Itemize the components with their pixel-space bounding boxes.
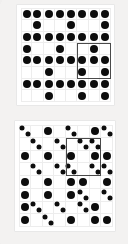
large-dot (101, 33, 109, 41)
large-dot (33, 10, 41, 18)
grid-cell (54, 151, 66, 164)
small-dot (25, 132, 30, 137)
grid-cell (100, 20, 111, 32)
small-dot (60, 144, 65, 149)
large-dot (56, 56, 64, 64)
grid-cell (19, 202, 31, 215)
large-dot (90, 56, 98, 64)
grid-cell (78, 151, 90, 164)
grid-cell (78, 176, 90, 189)
grid-cell (31, 176, 43, 189)
grid-cell (44, 55, 55, 67)
large-dot (78, 33, 86, 41)
small-dot (54, 138, 59, 143)
grid-cell (43, 214, 55, 227)
large-dot (78, 56, 86, 64)
large-dot (67, 191, 75, 199)
grid-cell (66, 151, 78, 164)
grid-cell (101, 202, 113, 215)
grid-cell (55, 90, 66, 102)
grid-cell (78, 125, 90, 138)
large-dot (67, 80, 75, 88)
large-dot (45, 33, 53, 41)
grid-cell (100, 79, 111, 91)
large-dot (33, 80, 41, 88)
grid-cell (66, 20, 77, 32)
small-dot (107, 195, 112, 200)
large-dot (90, 80, 98, 88)
diagonal-dot-pair (101, 189, 112, 200)
grid-cell (19, 214, 31, 227)
small-dot (31, 164, 36, 169)
grid-cell (101, 189, 113, 202)
grid-cell (54, 202, 66, 215)
large-dot (33, 56, 41, 64)
grid-cell (54, 163, 66, 176)
grid-cell (32, 20, 43, 32)
small-dot (84, 144, 89, 149)
grid-cell (66, 90, 77, 102)
grid-cell (21, 32, 32, 44)
figure-root (0, 0, 128, 244)
grid-cell (21, 55, 32, 67)
large-dot (21, 191, 29, 199)
grid-cell (19, 163, 31, 176)
large-dot (23, 80, 31, 88)
diagonal-dot-pair (54, 164, 65, 175)
large-dot (90, 45, 98, 53)
large-dot (21, 203, 29, 211)
diagonal-dot-pair (89, 164, 100, 175)
grid-cell (21, 8, 32, 20)
small-dot (78, 138, 83, 143)
grid-cell (31, 151, 43, 164)
grid-cell (43, 163, 55, 176)
large-dot (67, 216, 75, 224)
large-dot (79, 178, 87, 186)
grid-cell (21, 67, 32, 79)
grid-cell (44, 67, 55, 79)
large-dot (101, 21, 109, 29)
grid-cell (55, 55, 66, 67)
large-dot (45, 10, 53, 18)
large-dot (67, 33, 75, 41)
large-dot (23, 33, 31, 41)
small-dot (89, 164, 94, 169)
bottom-panel-grid (19, 125, 113, 227)
diagonal-dot-pair (101, 164, 112, 175)
grid-cell (77, 67, 88, 79)
grid-cell (90, 163, 102, 176)
grid-cell (54, 176, 66, 189)
grid-cell (32, 32, 43, 44)
grid-cell (32, 79, 43, 91)
large-dot (56, 80, 64, 88)
grid-cell (19, 176, 31, 189)
small-dot (95, 170, 100, 175)
small-dot (54, 164, 59, 169)
small-dot (78, 202, 83, 207)
grid-cell (89, 55, 100, 67)
grid-cell (78, 202, 90, 215)
small-dot (84, 208, 89, 213)
grid-cell (32, 55, 43, 67)
large-dot (21, 152, 29, 160)
large-dot (67, 10, 75, 18)
large-dot (103, 152, 111, 160)
grid-cell (31, 125, 43, 138)
grid-cell (77, 55, 88, 67)
grid-cell (101, 176, 113, 189)
grid-cell (31, 163, 43, 176)
grid-cell (77, 8, 88, 20)
grid-cell (100, 43, 111, 55)
grid-cell (89, 79, 100, 91)
grid-cell (31, 202, 43, 215)
large-dot (21, 216, 29, 224)
grid-cell (55, 8, 66, 20)
grid-cell (66, 189, 78, 202)
grid-cell (100, 55, 111, 67)
grid-cell (90, 176, 102, 189)
small-dot (107, 170, 112, 175)
large-dot (33, 33, 41, 41)
grid-cell (32, 8, 43, 20)
grid-cell (90, 151, 102, 164)
grid-cell (54, 214, 66, 227)
